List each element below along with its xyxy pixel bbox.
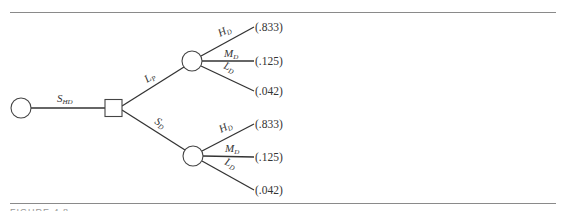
branch-label-sd: SD: [152, 115, 168, 132]
chance-node-upper: [182, 51, 202, 71]
decision-tree-figure: SHD LP SD HD MD LD (.833) (.125) (.042) …: [0, 0, 566, 211]
prob-lower-m: (.125): [255, 151, 283, 164]
outcome-label-lower-m: MD: [224, 142, 239, 156]
outcome-label-lower-h: HD: [216, 118, 235, 137]
branch-line-sd: [122, 110, 185, 150]
figure-caption: FIGURE 4.8: [10, 207, 69, 211]
prob-upper-m: (.125): [255, 55, 283, 68]
outcome-label-upper-m: MD: [223, 47, 238, 61]
prob-lower-l: (.042): [255, 184, 283, 197]
chance-node-lower: [183, 146, 203, 166]
prob-upper-l: (.042): [255, 85, 283, 98]
decision-node: [105, 100, 122, 117]
root-branch-label: SHD: [57, 92, 73, 106]
outcome-label-upper-h: HD: [215, 22, 234, 41]
branch-line-lp: [122, 67, 184, 106]
prob-upper-h: (.833): [255, 21, 283, 34]
root-chance-node: [11, 98, 31, 118]
prob-lower-h: (.833): [255, 118, 283, 131]
